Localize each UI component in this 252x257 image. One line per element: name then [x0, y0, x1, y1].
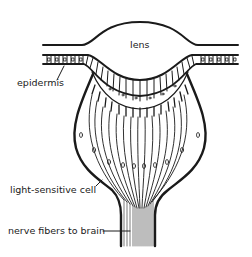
- lens-label: lens: [130, 39, 150, 50]
- cell-nuclei: [80, 133, 200, 169]
- eye-cup-outline-right: [155, 74, 206, 246]
- light-sensitive-cells: [89, 95, 187, 208]
- epidermis-label: epidermis: [17, 77, 64, 88]
- eye-diagram: lens epidermis light-sensitive cell nerv…: [0, 0, 252, 257]
- light-sensitive-cell-label: light-sensitive cell: [10, 184, 96, 195]
- nerve-fibers-label: nerve fibers to brain: [8, 225, 105, 236]
- epidermis-cells: [47, 55, 233, 101]
